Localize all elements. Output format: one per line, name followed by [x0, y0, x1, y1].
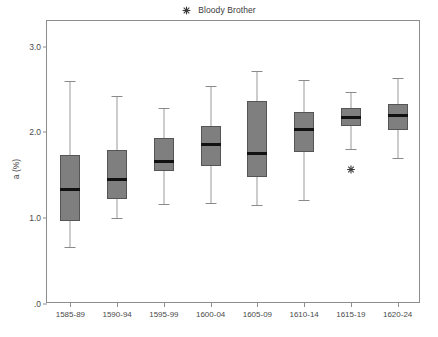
x-tick-label-1605-09: 1605-09: [243, 310, 272, 319]
median-line: [107, 178, 127, 181]
lower-whisker-cap: [205, 203, 216, 204]
iqr-box: [388, 104, 408, 130]
upper-whisker: [117, 96, 118, 149]
lower-whisker: [163, 171, 164, 204]
box-plot-1595-99[interactable]: [154, 21, 174, 304]
box-plot-1600-04[interactable]: [201, 21, 221, 304]
x-tick-label-1610-14: 1610-14: [289, 310, 318, 319]
x-tick-label-1615-19: 1615-19: [336, 310, 365, 319]
plot-area: 3.02.01.0.01585-891590-941595-991600-041…: [46, 20, 420, 303]
lower-whisker-cap: [65, 247, 76, 248]
x-tick-label-1590-94: 1590-94: [102, 310, 131, 319]
upper-whisker: [163, 108, 164, 138]
lower-whisker: [257, 177, 258, 204]
lower-whisker: [304, 152, 305, 200]
median-line: [247, 152, 267, 155]
box-plot-1605-09[interactable]: [247, 21, 267, 304]
upper-whisker-cap: [65, 81, 76, 82]
y-tick-label: 1.0: [29, 213, 41, 223]
asterisk-marker-icon: [182, 6, 191, 15]
upper-whisker-cap: [112, 96, 123, 97]
lower-whisker: [397, 130, 398, 158]
iqr-box: [294, 112, 314, 152]
median-line: [388, 114, 408, 117]
lower-whisker: [350, 126, 351, 149]
boxplot-figure: Bloody Brother a (%) 3.02.01.0.01585-891…: [0, 0, 438, 337]
lower-whisker-cap: [299, 200, 310, 201]
upper-whisker: [210, 86, 211, 126]
box-plot-1620-24[interactable]: [388, 21, 408, 304]
upper-whisker-cap: [158, 108, 169, 109]
median-line: [201, 143, 221, 146]
iqr-box: [247, 101, 267, 177]
median-line: [60, 188, 80, 191]
median-line: [154, 160, 174, 163]
legend-label: Bloody Brother: [198, 5, 256, 15]
iqr-box: [154, 138, 174, 171]
upper-whisker: [397, 78, 398, 104]
iqr-box: [201, 126, 221, 165]
box-plot-1585-89[interactable]: [60, 21, 80, 304]
upper-whisker: [70, 81, 71, 155]
outlier-marker[interactable]: [346, 160, 355, 178]
upper-whisker-cap: [345, 92, 356, 93]
iqr-box: [107, 150, 127, 199]
chart-legend: Bloody Brother: [0, 2, 438, 18]
y-tick-mark: [43, 132, 47, 133]
lower-whisker-cap: [345, 149, 356, 150]
lower-whisker-cap: [252, 205, 263, 206]
upper-whisker-cap: [205, 86, 216, 87]
upper-whisker-cap: [252, 71, 263, 72]
x-tick-label-1620-24: 1620-24: [383, 310, 412, 319]
y-tick-mark: [43, 46, 47, 47]
upper-whisker: [350, 92, 351, 108]
lower-whisker-cap: [392, 158, 403, 159]
y-tick-label: .0: [34, 299, 41, 309]
y-axis-label: a (%): [11, 158, 21, 178]
median-line: [294, 128, 314, 131]
lower-whisker: [70, 221, 71, 248]
lower-whisker: [210, 166, 211, 203]
upper-whisker-cap: [392, 78, 403, 79]
y-tick-mark: [43, 218, 47, 219]
lower-whisker-cap: [112, 218, 123, 219]
y-tick-label: 2.0: [29, 127, 41, 137]
y-tick-mark: [43, 304, 47, 305]
y-tick-label: 3.0: [29, 42, 41, 52]
box-plot-1610-14[interactable]: [294, 21, 314, 304]
upper-whisker-cap: [299, 80, 310, 81]
median-line: [341, 116, 361, 119]
lower-whisker-cap: [158, 204, 169, 205]
upper-whisker: [257, 71, 258, 101]
upper-whisker: [304, 80, 305, 112]
x-tick-label-1600-04: 1600-04: [196, 310, 225, 319]
box-plot-1590-94[interactable]: [107, 21, 127, 304]
x-tick-label-1585-89: 1585-89: [56, 310, 85, 319]
lower-whisker: [117, 199, 118, 219]
x-tick-label-1595-99: 1595-99: [149, 310, 178, 319]
